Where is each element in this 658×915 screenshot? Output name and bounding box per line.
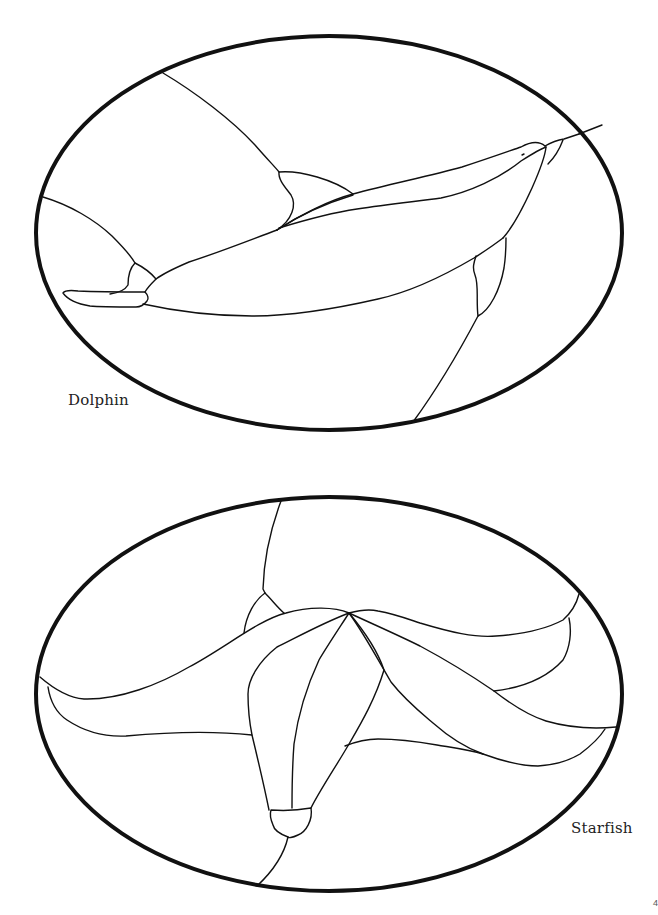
starfish-bottom-stem [257,837,288,886]
starfish-left-arm-top [40,608,349,699]
starfish-panel [36,497,622,891]
starfish-bottom-arm-left [248,613,349,810]
dolphin-fluke [63,290,148,307]
starfish-small-lobe [244,593,284,633]
dolphin-background-arc-left [43,197,135,263]
starfish-arm-tip [270,808,311,838]
line-art-canvas [0,0,658,915]
dolphin-flipper [473,238,506,316]
dolphin-upper-body-left [156,230,277,279]
starfish-lower-right-body [345,739,483,754]
starfish-left-arm-bottom [48,687,252,736]
dolphin-panel [36,36,622,430]
starfish-caption: Starfish [571,819,633,837]
starfish-top-stem [263,501,281,593]
dolphin-belly-line [279,147,546,228]
dolphin-dorsal-fin [277,172,353,230]
dolphin-tail-stock [110,263,156,294]
page-number: 4 [653,898,658,908]
coloring-page: Dolphin Starfish 4 [0,0,658,915]
dolphin-eye [522,154,524,155]
starfish-right-arm-top [349,594,579,636]
dolphin-background-arc-upper [163,73,279,172]
dolphin-caption: Dolphin [68,391,129,409]
starfish-right-arm-lower [494,618,570,691]
starfish-bottom-arm-right [311,613,384,808]
dolphin-snout [545,134,579,164]
dolphin-lower-body [143,238,503,316]
dolphin-frame-ellipse [36,36,622,430]
starfish-bottom-arm-center [292,613,349,808]
dolphin-head-front [503,147,546,238]
dolphin-background-arc-right [579,125,602,134]
starfish-right-arm-middle [349,613,616,728]
